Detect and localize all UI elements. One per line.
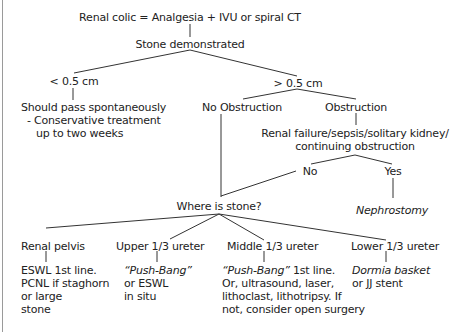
- node-answer-yes: Yes: [384, 165, 401, 178]
- treatment-line: or JJ stent: [352, 277, 430, 290]
- treatment-line-first: “Push-Bang” 1st line.: [222, 264, 365, 277]
- node-less-than-half-cm: < 0.5 cm: [50, 75, 99, 88]
- treatment-line: not, consider open surgery: [222, 303, 365, 316]
- node-no-obstruction: No Obstruction: [202, 101, 282, 114]
- treatment-line-italic: Dormia basket: [352, 264, 430, 277]
- node-middle-third-ureter: Middle 1/3 ureter: [227, 240, 318, 253]
- node-answer-no: No: [303, 165, 318, 178]
- node-obstruction: Obstruction: [325, 101, 387, 114]
- treatment-line: or large: [21, 290, 109, 303]
- treatment-line: ESWL 1st line.: [21, 264, 109, 277]
- node-nephrostomy: Nephrostomy: [356, 204, 428, 217]
- outcome-line-3: up to two weeks: [21, 127, 166, 140]
- outcome-line-1: Should pass spontaneously: [21, 101, 166, 114]
- treatment-line: or ESWL: [124, 277, 192, 290]
- treatment-upper-third-ureter: “Push-Bang” or ESWL in situ: [124, 264, 192, 303]
- outcome-line-2: - Conservative treatment: [21, 114, 166, 127]
- push-bang-italic: “Push-Bang”: [222, 264, 290, 277]
- treatment-line: stone: [21, 303, 109, 316]
- first-line-suffix: 1st line.: [290, 264, 335, 277]
- node-spontaneous-passage: Should pass spontaneously - Conservative…: [21, 101, 166, 140]
- treatment-middle-third-ureter: “Push-Bang” 1st line. Or, ultrasound, la…: [222, 264, 365, 316]
- node-lower-third-ureter: Lower 1/3 ureter: [351, 240, 439, 253]
- node-complications: Renal failure/sepsis/solitary kidney/ co…: [261, 127, 448, 153]
- node-upper-third-ureter: Upper 1/3 ureter: [116, 240, 204, 253]
- treatment-line: lithoclast, lithotripsy. If: [222, 290, 365, 303]
- treatment-line: PCNL if staghorn: [21, 277, 109, 290]
- node-renal-pelvis: Renal pelvis: [21, 240, 85, 253]
- treatment-line: in situ: [124, 290, 192, 303]
- treatment-lower-third-ureter: Dormia basket or JJ stent: [352, 264, 430, 290]
- node-stone-demonstrated: Stone demonstrated: [135, 38, 244, 51]
- treatment-line-italic: “Push-Bang”: [124, 264, 192, 277]
- treatment-renal-pelvis: ESWL 1st line. PCNL if staghorn or large…: [21, 264, 109, 316]
- treatment-line: Or, ultrasound, laser,: [222, 277, 365, 290]
- complications-line-1: Renal failure/sepsis/solitary kidney/: [261, 127, 448, 140]
- node-greater-than-half-cm: > 0.5 cm: [274, 77, 323, 90]
- node-where-is-stone: Where is stone?: [177, 200, 262, 213]
- complications-line-2: continuing obstruction: [261, 140, 448, 153]
- root-node-renal-colic: Renal colic = Analgesia + IVU or spiral …: [79, 11, 301, 24]
